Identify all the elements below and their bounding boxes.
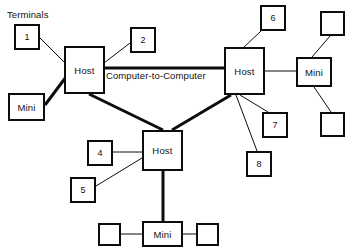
node-boxTR[interactable]	[320, 11, 345, 36]
edge-hostRight-to-term7	[240, 95, 268, 112]
edge-miniRight-to-boxTR	[312, 36, 330, 57]
node-label-miniLeft: Mini	[17, 102, 35, 113]
edge-hostLeft-to-hostCenter	[89, 94, 163, 130]
node-term6[interactable]: 6	[260, 5, 286, 31]
node-term2[interactable]: 2	[130, 27, 156, 53]
node-term7[interactable]: 7	[262, 112, 288, 138]
edge-term2-to-hostLeft	[104, 43, 130, 63]
node-label-term5: 5	[80, 185, 85, 195]
edge-hostRight-to-hostCenter	[172, 95, 231, 130]
node-label-term2: 2	[140, 35, 145, 45]
node-label-hostRight: Host	[234, 66, 254, 77]
node-term1[interactable]: 1	[14, 24, 40, 50]
edge-term6-to-hostRight	[243, 31, 261, 48]
node-hostRight[interactable]: Host	[224, 47, 265, 95]
node-miniRight[interactable]: Mini	[296, 57, 332, 87]
node-term5[interactable]: 5	[70, 177, 96, 203]
node-label-term7: 7	[272, 120, 277, 130]
node-term8[interactable]: 8	[246, 151, 272, 177]
edge-miniLeft-to-hostLeft	[45, 77, 66, 105]
node-boxBR[interactable]	[320, 112, 345, 137]
node-hostLeft[interactable]: Host	[64, 46, 105, 94]
node-label-hostCenter: Host	[152, 145, 172, 156]
node-label-term6: 6	[270, 13, 275, 23]
node-miniBottom[interactable]: Mini	[142, 221, 183, 247]
node-label-miniBottom: Mini	[153, 229, 171, 240]
edge-miniRight-to-boxBR	[314, 87, 331, 112]
edge-term1-to-hostLeft	[40, 38, 65, 63]
node-label-miniRight: Mini	[305, 67, 323, 78]
node-miniLeft[interactable]: Mini	[8, 93, 45, 121]
node-boxBL[interactable]	[98, 223, 121, 246]
node-hostCenter[interactable]: Host	[142, 130, 183, 171]
terminals-label: Terminals	[7, 9, 49, 20]
node-label-hostLeft: Host	[74, 65, 94, 76]
node-boxBC[interactable]	[196, 223, 219, 246]
network-diagram: MiniMiniMiniHostHostHost8765421 Terminal…	[0, 0, 348, 249]
node-label-term8: 8	[256, 159, 261, 169]
node-label-term4: 4	[97, 148, 102, 158]
computer-to-computer-label: Computer-to-Computer	[105, 70, 207, 81]
diagram-edges-layer	[0, 0, 348, 249]
node-label-term1: 1	[24, 32, 29, 42]
node-term4[interactable]: 4	[87, 140, 113, 166]
